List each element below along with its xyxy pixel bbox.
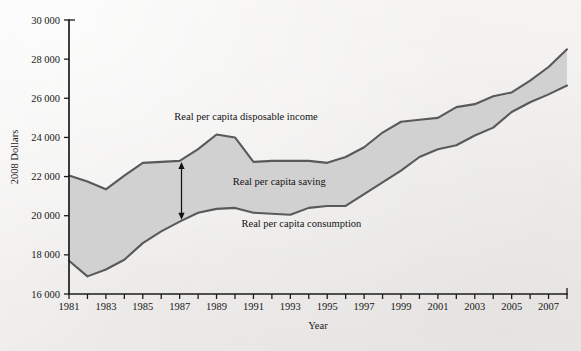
figure-container: 16 00018 00020 00022 00024 00026 00028 0… [0,0,581,351]
saving-band-label: Real per capita saving [233,176,327,187]
y-tick-label-20000: 20 000 [31,210,60,221]
x-tick-label-1999: 1999 [391,301,412,312]
x-tick-label-2005: 2005 [501,301,522,312]
x-tick-label-1989: 1989 [206,301,227,312]
y-tick-label-30000: 30 000 [31,15,60,26]
y-axis-title: 2008 Dollars [9,130,20,185]
y-tick-label-22000: 22 000 [31,171,60,182]
x-tick-label-1983: 1983 [95,301,116,312]
area-chart: 16 00018 00020 00022 00024 00026 00028 0… [0,0,581,351]
income-series-label: Real per capita disposable income [174,111,318,122]
x-tick-label-1995: 1995 [317,301,338,312]
y-tick-label-16000: 16 000 [31,289,60,300]
axes-layer [64,20,567,299]
x-tick-label-2007: 2007 [538,301,559,312]
y-tick-label-24000: 24 000 [31,132,60,143]
consumption-series-label: Real per capita consumption [241,218,362,229]
x-tick-label-1987: 1987 [169,301,190,312]
y-axis-tick-labels: 16 00018 00020 00022 00024 00026 00028 0… [31,15,60,300]
x-tick-label-1985: 1985 [132,301,153,312]
x-axis-title: Year [308,320,328,331]
series-layer [69,49,567,276]
x-tick-label-2001: 2001 [427,301,448,312]
y-tick-label-18000: 18 000 [31,249,60,260]
x-tick-label-1981: 1981 [59,301,80,312]
y-tick-label-26000: 26 000 [31,93,60,104]
y-tick-label-28000: 28 000 [31,54,60,65]
x-tick-label-1991: 1991 [243,301,264,312]
x-axis-tick-labels: 1981198319851987198919911993199519971999… [59,301,560,312]
x-tick-label-2003: 2003 [464,301,485,312]
x-tick-label-1993: 1993 [280,301,301,312]
x-tick-label-1997: 1997 [354,301,375,312]
